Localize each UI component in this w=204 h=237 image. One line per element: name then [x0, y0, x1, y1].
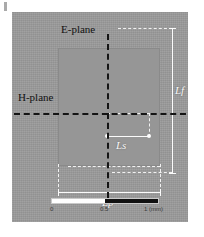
lf-bottom-extension-line — [112, 172, 172, 173]
lp-right-arrow-cap — [160, 189, 161, 196]
scan-artifact-speck — [4, 2, 7, 11]
lf-top-arrow-cap — [169, 28, 176, 29]
h-plane-line — [14, 113, 186, 115]
scale-tick-0: 0 — [50, 206, 53, 212]
ls-dimension-line — [107, 136, 150, 137]
scale-bar-segment-black — [105, 199, 158, 203]
lf-top-extension-line — [118, 28, 172, 29]
antenna-photograph: E-plane H-plane Lf Lp Ls 0 0.5 1 (mm) — [12, 12, 188, 222]
scale-bar-segment-white — [52, 199, 105, 203]
lf-bottom-arrow-cap — [169, 173, 176, 174]
scale-bar — [51, 198, 159, 204]
lf-dimension-line — [172, 28, 173, 174]
ls-label: Ls — [116, 139, 126, 151]
h-plane-label: H-plane — [18, 91, 53, 103]
scale-tick-1: 1 (mm) — [144, 206, 163, 212]
lp-left-arrow-cap — [58, 189, 59, 196]
scale-tick-0.5: 0.5 — [100, 206, 108, 212]
lf-label: Lf — [175, 84, 184, 96]
lp-upper-dashed-line — [68, 166, 160, 167]
lp-dimension-line — [58, 192, 161, 193]
lp-left-extension-line — [58, 164, 59, 192]
figure-container: E-plane H-plane Lf Lp Ls 0 0.5 1 (mm) — [0, 0, 204, 237]
patch-rectangle — [58, 48, 160, 166]
ls-right-terminator-dot — [147, 134, 151, 138]
e-plane-line — [107, 34, 109, 198]
e-plane-label: E-plane — [61, 23, 95, 35]
lp-right-extension-line — [160, 164, 161, 192]
